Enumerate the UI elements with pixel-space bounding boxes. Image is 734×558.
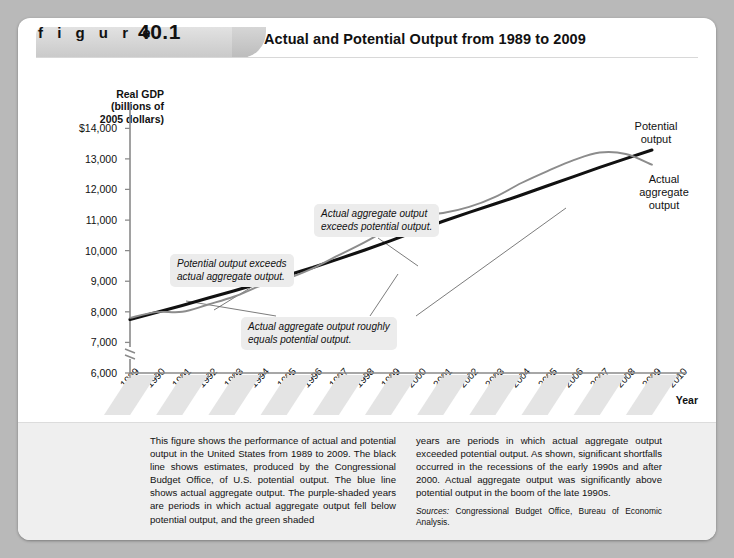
chart-area: Real GDP (billions of 2005 dollars) 6,00… bbox=[18, 58, 716, 418]
year-band bbox=[626, 375, 678, 415]
caption-sources: Sources: Congressional Budget Office, Bu… bbox=[416, 506, 662, 527]
callout-roughly-equal: Actual aggregate output roughly equals p… bbox=[241, 317, 397, 350]
actual-label-line1: Actual bbox=[649, 173, 680, 185]
year-band bbox=[104, 375, 156, 415]
callout-leader-2 bbox=[186, 301, 276, 316]
year-band bbox=[313, 375, 365, 415]
callout-2-line2: equals potential output. bbox=[248, 334, 351, 345]
callout-leader-3 bbox=[370, 274, 398, 316]
callout-2-line1: Actual aggregate output roughly bbox=[248, 321, 390, 332]
year-band bbox=[208, 375, 260, 415]
callout-actual-exceeds-potential: Actual aggregate output exceeds potentia… bbox=[314, 204, 439, 237]
callout-potential-exceeds-actual: Potential output exceeds actual aggregat… bbox=[170, 254, 294, 287]
year-band bbox=[156, 375, 208, 415]
callout-0-line1: Potential output exceeds bbox=[177, 258, 287, 269]
callout-1-line1: Actual aggregate output bbox=[321, 208, 427, 219]
caption-left-column: This figure shows the performance of act… bbox=[150, 434, 396, 526]
potential-label-line1: Potential bbox=[635, 120, 678, 132]
year-band bbox=[574, 375, 626, 415]
year-band bbox=[417, 375, 469, 415]
caption-right-text: years are periods in which actual aggreg… bbox=[416, 435, 662, 498]
year-band bbox=[365, 375, 417, 415]
axis-break-marker bbox=[125, 349, 135, 359]
figure-card: f i g u r e 40.1 Actual and Potential Ou… bbox=[18, 18, 716, 540]
axis-lines bbox=[125, 103, 686, 378]
year-shade-bands bbox=[104, 375, 678, 415]
actual-label-line2: aggregate bbox=[639, 186, 689, 198]
actual-output-label: Actual aggregate output bbox=[622, 173, 706, 212]
callout-0-line2: actual aggregate output. bbox=[177, 271, 285, 282]
year-band bbox=[261, 375, 313, 415]
plot-svg bbox=[18, 58, 716, 418]
figure-number-label: 40.1 bbox=[138, 20, 181, 44]
year-band bbox=[469, 375, 521, 415]
caption-right-column: years are periods in which actual aggreg… bbox=[416, 434, 662, 528]
potential-label-line2: output bbox=[641, 133, 672, 145]
figure-header: f i g u r e 40.1 Actual and Potential Ou… bbox=[18, 18, 716, 58]
potential-output-label: Potential output bbox=[610, 120, 702, 146]
figure-title: Actual and Potential Output from 1989 to… bbox=[264, 31, 586, 47]
year-band bbox=[522, 375, 574, 415]
callout-1-line2: exceeds potential output. bbox=[321, 221, 432, 232]
sources-text: Congressional Budget Office, Bureau of E… bbox=[416, 506, 662, 527]
caption-band: This figure shows the performance of act… bbox=[18, 422, 716, 540]
sources-label: Sources: bbox=[416, 506, 449, 516]
actual-label-line3: output bbox=[649, 199, 680, 211]
